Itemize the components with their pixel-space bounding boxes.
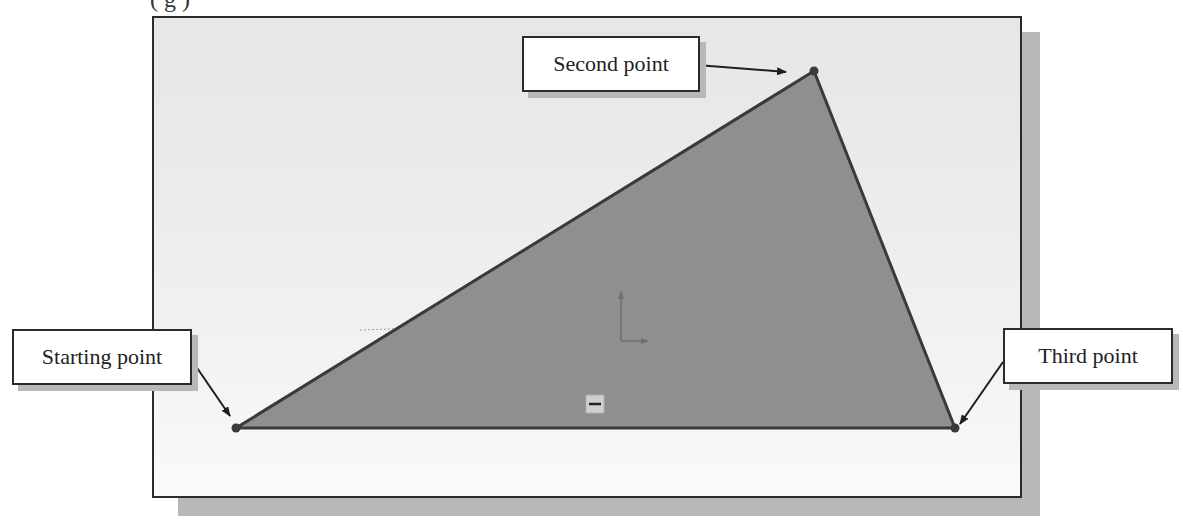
second-point-callout: Second point [522, 36, 700, 92]
starting-point-callout: Starting point [12, 329, 192, 385]
starting-point-leader-arrow [193, 362, 230, 416]
third-point-callout: Third point [1003, 328, 1173, 384]
sketch-triangle[interactable] [236, 71, 955, 428]
third-point-vertex[interactable] [951, 424, 960, 433]
third-point-label: Third point [1038, 343, 1138, 369]
third-point-leader-arrow [960, 362, 1003, 424]
second-point-leader-arrow [697, 65, 786, 72]
second-point-label: Second point [553, 51, 669, 77]
horizontal-relation-icon[interactable] [586, 395, 604, 413]
second-point-vertex[interactable] [810, 67, 819, 76]
starting-point-label: Starting point [42, 344, 162, 370]
starting-point-vertex[interactable] [232, 424, 241, 433]
